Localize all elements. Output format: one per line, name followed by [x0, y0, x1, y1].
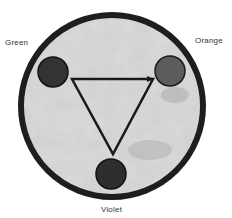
node-orange	[155, 56, 185, 86]
node-green	[38, 57, 68, 87]
node-violet	[96, 159, 126, 189]
color-triangle-diagram	[0, 0, 232, 218]
label-orange: Orange	[195, 36, 223, 45]
label-green: Green	[5, 38, 28, 47]
label-violet: Violet	[101, 205, 122, 214]
